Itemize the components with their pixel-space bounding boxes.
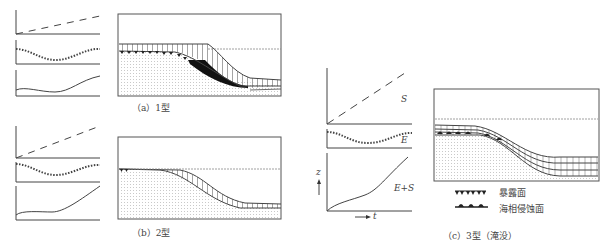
label-S: S — [401, 94, 407, 104]
panel-b-section — [118, 137, 281, 219]
sea-level-rise-line — [16, 16, 100, 34]
legend-exposure-symbol — [455, 191, 486, 195]
label-t-axis: t — [373, 211, 377, 221]
panel-b-curves — [16, 126, 100, 220]
panel-c-curves — [317, 68, 412, 219]
panel-a-section — [118, 14, 281, 96]
caption-panel-c: （c）3型（淹没） — [443, 229, 517, 242]
legend-erosion-label: 海相侵蚀面 — [499, 202, 544, 215]
relative-sea-level-curve — [16, 76, 100, 92]
caption-panel-b: （b）2型 — [132, 226, 171, 239]
label-z-axis: z — [316, 167, 321, 177]
caption-panel-a: （a）1型 — [132, 101, 170, 114]
label-E: E — [401, 135, 408, 145]
legend-erosion-symbol — [455, 204, 488, 207]
eustatic-curve — [16, 49, 100, 60]
panel-c-section — [434, 89, 599, 181]
legend-exposure-label: 暴露面 — [499, 186, 526, 199]
label-E-plus-S: E+S — [394, 183, 414, 193]
panel-a-curves — [16, 10, 100, 96]
